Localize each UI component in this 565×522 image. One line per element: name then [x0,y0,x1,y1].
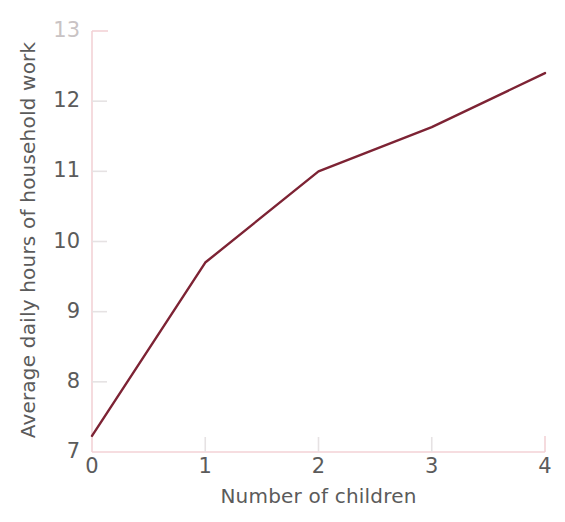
data-series-line [92,73,545,436]
axis-lines [92,31,545,452]
plot-area [0,0,565,522]
tick-marks [92,101,432,452]
x-axis-title: Number of children [92,484,545,508]
line-chart-figure: Average daily hours of household work 78… [0,0,565,522]
